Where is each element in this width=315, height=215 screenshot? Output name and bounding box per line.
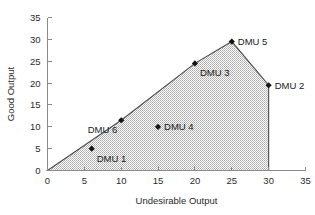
chart-container: 0510152025303505101520253035 DMU 1DMU 6D…: [0, 0, 315, 215]
y-axis-title: Good Output: [5, 66, 16, 121]
x-tick-label: 15: [153, 175, 164, 186]
x-tick-label: 30: [263, 175, 274, 186]
data-point-label: DMU 6: [88, 124, 118, 135]
x-tick-label: 5: [82, 175, 87, 186]
y-tick-label: 10: [30, 121, 41, 132]
data-point-label: DMU 1: [97, 153, 127, 164]
x-tick-label: 10: [116, 175, 127, 186]
scatter-chart: 0510152025303505101520253035 DMU 1DMU 6D…: [0, 0, 315, 215]
x-tick-label: 0: [45, 175, 50, 186]
y-tick-label: 30: [30, 34, 41, 45]
x-tick-label: 25: [226, 175, 237, 186]
x-tick-label: 35: [300, 175, 311, 186]
x-axis-title: Undesirable Output: [136, 195, 218, 206]
data-point-label: DMU 3: [200, 67, 230, 78]
data-point-label: DMU 5: [238, 36, 268, 47]
y-tick-label: 15: [30, 99, 41, 110]
data-point-label: DMU 2: [275, 80, 305, 91]
y-tick-label: 25: [30, 56, 41, 67]
x-tick-label: 20: [190, 175, 201, 186]
y-tick-label: 0: [35, 165, 40, 176]
data-point-label: DMU 4: [164, 121, 194, 132]
y-tick-label: 35: [30, 12, 41, 23]
y-tick-label: 20: [30, 78, 41, 89]
y-tick-label: 5: [35, 143, 40, 154]
